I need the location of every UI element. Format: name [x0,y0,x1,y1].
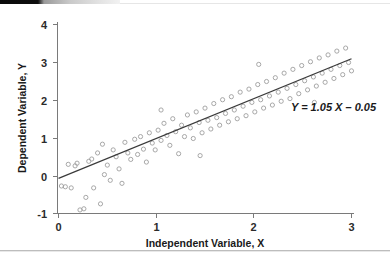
x-axis-group: 0 1 2 3 Independent Variable, X [55,214,354,250]
scatter-point [159,138,163,142]
scatter-point [317,56,321,60]
scatter-point [303,79,307,83]
scatter-point [247,87,251,91]
scatter-point [84,195,88,199]
scatter-point [220,98,224,102]
scatter-point [141,147,145,151]
scatter-point [177,152,181,156]
y-axis-tick-labels: 4 3 2 1 0 -1 [37,19,48,220]
scatter-points-layer [59,46,353,212]
regression-equation-annotation: Y = 1.05 X – 0.05 [291,101,377,113]
scatter-point [144,160,148,164]
scatter-point [159,108,163,112]
scatter-point [297,92,301,96]
scatter-point [136,152,140,156]
scatter-point [191,136,195,140]
scatter-point [232,108,236,112]
y-tick-label-3: 3 [41,57,47,69]
scatter-point [200,131,204,135]
scatter-point [198,154,202,158]
scatter-point [326,53,330,57]
scatter-point [335,49,339,53]
x-axis-title: Independent Variable, X [146,237,264,249]
x-axis-ticks [59,214,352,219]
x-tick-label-3: 3 [348,221,354,233]
scatter-point [179,123,183,127]
y-tick-label-1: 1 [41,133,47,145]
scatter-point [194,110,198,114]
scatter-point [206,118,210,122]
scatter-point [267,94,271,98]
scatter-point [162,121,166,125]
scatter-point [203,106,207,110]
scatter-point [123,140,127,144]
scatter-point [291,67,295,71]
regression-line [59,59,352,179]
scatter-point [108,178,112,182]
scatter-plot-svg: 4 3 2 1 0 -1 Dependent Variable, Y 0 1 2 [0,0,390,264]
scatter-point [111,148,115,152]
scatter-point [102,173,106,177]
scatter-point [168,143,172,147]
scatter-point [182,135,186,139]
scatter-point [133,137,137,141]
scatter-point [262,106,266,110]
scatter-point [235,117,239,121]
scatter-point [95,151,99,155]
scatter-point [256,82,260,86]
scatter-point [185,113,189,117]
scatter-point [209,127,213,131]
scatter-point [226,120,230,124]
scatter-point [150,141,154,145]
scatter-point [341,73,345,77]
scatter-point [257,62,261,66]
scatter-point [282,71,286,75]
y-tick-label-0: 0 [41,171,47,183]
y-axis-group: 4 3 2 1 0 -1 Dependent Variable, Y [16,19,58,220]
scatter-point [273,76,277,80]
scatter-point [218,123,222,127]
scatter-point [105,163,109,167]
scatter-point [276,90,280,94]
scatter-point [253,110,257,114]
scatter-point [229,95,233,99]
scatter-point [279,99,283,103]
scatter-point [171,117,175,121]
bottom-divider-rule-shadow [0,251,390,252]
scatter-point [90,157,94,161]
scatter-point [138,135,142,139]
scatter-point [147,131,151,135]
y-axis-title: Dependent Variable, Y [16,63,28,173]
scatter-point [117,167,121,171]
scatter-point [156,128,160,132]
scatter-point [300,63,304,67]
scatter-point [129,157,133,161]
x-tick-label-0: 0 [55,221,61,233]
scatter-point [92,186,96,190]
scatter-point [238,90,242,94]
scatter-point [349,69,353,73]
scatter-point [223,111,227,115]
scatter-point [323,80,327,84]
scatter-point [285,86,289,90]
y-tick-label-4: 4 [41,19,48,31]
figure-container: 4 3 2 1 0 -1 Dependent Variable, Y 0 1 2 [0,0,390,264]
scatter-point [332,76,336,80]
y-tick-label-2: 2 [41,95,47,107]
scatter-point [259,98,263,102]
scatter-point [100,142,104,146]
y-axis-ticks [53,25,58,214]
scatter-point [69,186,73,190]
y-tick-label-neg1: -1 [37,208,47,220]
scatter-point [264,79,268,83]
scatter-point [344,46,348,50]
scatter-point [244,114,248,118]
scatter-point [241,104,245,108]
scatter-point [120,181,124,185]
x-tick-label-1: 1 [153,221,159,233]
scatter-point [212,101,216,105]
scatter-point [314,84,318,88]
x-axis-tick-labels: 0 1 2 3 [55,221,354,233]
scatter-point [188,126,192,130]
scatter-point [98,202,102,206]
